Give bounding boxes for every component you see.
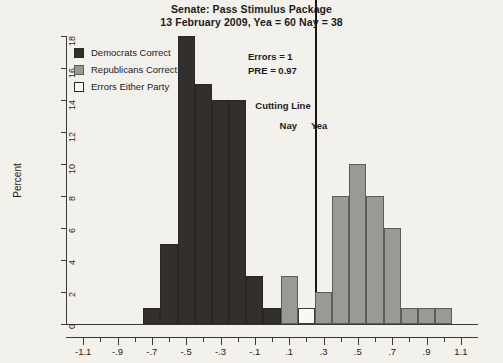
y-tick — [61, 228, 66, 229]
x-tick-major — [358, 337, 359, 345]
x-tick-minor — [238, 337, 239, 342]
y-tick — [61, 292, 66, 293]
y-tick — [61, 68, 66, 69]
x-axis-line — [66, 324, 478, 325]
y-tick — [61, 36, 66, 37]
x-tick-minor — [341, 337, 342, 342]
bar — [332, 196, 349, 324]
y-tick-label-text: 12 — [67, 132, 77, 142]
bar — [246, 276, 263, 324]
x-tick-major — [221, 337, 222, 345]
y-axis-line — [66, 36, 67, 324]
x-tick-minor — [272, 337, 273, 342]
x-tick-label: -.3 — [215, 346, 226, 357]
chart-subtitle-line2: 13 February 2009, Yea = 60 Nay = 38 — [0, 16, 503, 28]
y-tick — [61, 196, 66, 197]
x-tick-major — [186, 337, 187, 345]
y-tick — [61, 100, 66, 101]
legend-item-democrats: Democrats Correct — [74, 44, 177, 61]
x-tick-minor — [203, 337, 204, 342]
x-tick-minor — [375, 337, 376, 342]
y-tick-label-text: 2 — [67, 292, 77, 297]
y-axis-label-text: Percent — [12, 163, 23, 197]
x-tick-major — [461, 337, 462, 345]
x-tick-major — [152, 337, 153, 345]
legend-label-errors: Errors Either Party — [91, 81, 169, 92]
bar — [263, 308, 280, 324]
x-tick-major — [392, 337, 393, 345]
x-tick-minor — [169, 337, 170, 342]
legend: Democrats Correct Republicans Correct Er… — [74, 44, 177, 95]
x-tick-label: .7 — [388, 346, 396, 357]
legend-swatch-icon-republicans — [74, 65, 84, 75]
x-tick-label: -.5 — [181, 346, 192, 357]
chart-title-line1: Senate: Pass Stimulus Package — [0, 3, 503, 15]
x-tick-label-group: -1.1-.9-.7-.5-.3-.1.1.3.5.7.91.1 — [66, 346, 478, 360]
bar — [281, 276, 298, 324]
bar — [349, 164, 366, 324]
x-tick-label: .9 — [423, 346, 431, 357]
y-tick-label-text: 14 — [67, 100, 77, 110]
legend-item-errors: Errors Either Party — [74, 78, 177, 95]
x-tick-label: .5 — [354, 346, 362, 357]
legend-label-republicans: Republicans Correct — [91, 64, 177, 75]
y-tick — [61, 324, 66, 325]
bar — [143, 308, 160, 324]
x-tick-minor — [444, 337, 445, 342]
x-tick-major — [118, 337, 119, 345]
bar — [315, 292, 332, 324]
bar — [195, 84, 212, 324]
y-tick-label-text: 4 — [67, 260, 77, 265]
bar — [229, 100, 246, 324]
bar — [298, 308, 315, 324]
bar — [366, 196, 383, 324]
x-tick-major — [255, 337, 256, 345]
errors-stat: Errors = 1 — [248, 50, 297, 64]
x-tick-minor — [100, 337, 101, 342]
y-tick-label-text: 0 — [67, 324, 77, 329]
x-tick-major — [83, 337, 84, 345]
bar — [160, 244, 177, 324]
y-tick-label-text: 10 — [67, 164, 77, 174]
bar — [178, 36, 195, 324]
x-tick-major — [324, 337, 325, 345]
chart-canvas: Senate: Pass Stimulus Package 13 Februar… — [0, 0, 503, 363]
bar — [401, 308, 418, 324]
statistics-annotation: Errors = 1 PRE = 0.97 — [248, 50, 297, 78]
x-tick-label: -.7 — [146, 346, 157, 357]
pre-stat: PRE = 0.97 — [248, 64, 297, 78]
x-tick-label: .3 — [320, 346, 328, 357]
x-tick-major — [289, 337, 290, 345]
y-tick-label-text: 6 — [67, 228, 77, 233]
legend-swatch-icon-democrats — [74, 48, 84, 58]
x-tick-minor — [135, 337, 136, 342]
legend-item-republicans: Republicans Correct — [74, 61, 177, 78]
x-tick-label: -1.1 — [75, 346, 91, 357]
yea-side-label: Yea — [311, 120, 327, 131]
y-axis-label: Percent — [10, 36, 24, 324]
x-tick-minor — [409, 337, 410, 342]
y-tick — [61, 132, 66, 133]
bar — [435, 308, 452, 324]
y-tick-label-text: 8 — [67, 196, 77, 201]
bar — [212, 100, 229, 324]
y-tick — [61, 164, 66, 165]
bar — [418, 308, 435, 324]
x-tick-major — [427, 337, 428, 345]
x-tick-label: -.9 — [112, 346, 123, 357]
cutting-line-label: Cutting Line — [255, 100, 310, 111]
x-tick-label: -.1 — [249, 346, 260, 357]
x-tick-minor — [306, 337, 307, 342]
x-tick-label: .1 — [285, 346, 293, 357]
x-tick-label: 1.1 — [454, 346, 467, 357]
y-tick — [61, 260, 66, 261]
bar — [384, 228, 401, 324]
nay-side-label: Nay — [280, 120, 297, 131]
legend-swatch-icon-errors — [74, 82, 84, 92]
cutting-line — [315, 0, 317, 324]
legend-label-democrats: Democrats Correct — [91, 47, 171, 58]
